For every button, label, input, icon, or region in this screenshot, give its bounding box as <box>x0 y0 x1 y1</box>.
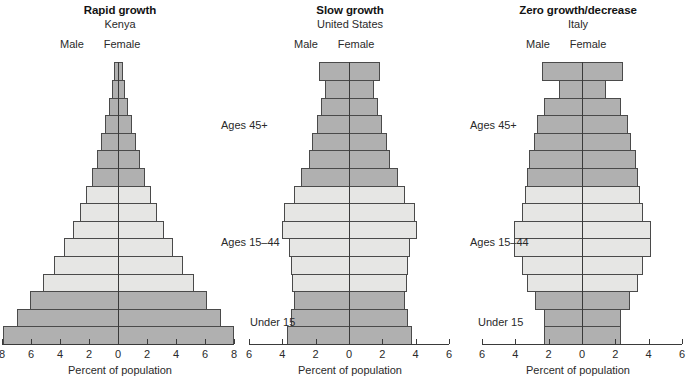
bar-male-2 <box>535 291 583 310</box>
bar-male-7 <box>284 203 350 222</box>
bar-male-13 <box>544 98 583 117</box>
x-tick-7 <box>205 339 206 344</box>
x-tick-label-5: 2 <box>135 348 159 360</box>
bar-female-8 <box>582 186 640 205</box>
x-tick-3 <box>89 339 90 344</box>
bar-male-9 <box>301 168 350 187</box>
bar-female-3 <box>118 274 194 293</box>
age-band-label-left_of_panel3-1: Ages 15–44 <box>470 236 529 248</box>
x-tick-label-7: 6 <box>193 348 217 360</box>
x-tick-label-6: 6 <box>437 348 461 360</box>
bar-female-13 <box>582 98 621 117</box>
bar-female-11 <box>118 133 136 152</box>
bar-female-6 <box>582 221 651 240</box>
x-tick-1 <box>515 339 516 344</box>
bar-female-8 <box>349 186 405 205</box>
x-tick-label-6: 4 <box>164 348 188 360</box>
x-tick-label-4: 2 <box>603 348 627 360</box>
x-tick-2 <box>60 339 61 344</box>
bar-male-12 <box>105 115 119 134</box>
x-tick-6 <box>449 339 450 344</box>
bar-male-0 <box>287 326 350 345</box>
x-tick-label-6: 6 <box>670 348 694 360</box>
panel-title: Zero growth/decrease <box>460 4 696 16</box>
bar-male-11 <box>534 133 583 152</box>
bar-male-6 <box>73 221 119 240</box>
bar-male-5 <box>289 238 350 257</box>
bar-female-15 <box>582 62 623 81</box>
bar-male-1 <box>17 309 120 328</box>
x-tick-label-3: 2 <box>77 348 101 360</box>
bar-female-0 <box>349 326 412 345</box>
bar-male-7 <box>80 203 119 222</box>
bar-female-10 <box>582 150 636 169</box>
x-tick-1 <box>282 339 283 344</box>
age-band-label-left_of_panel2-0: Ages 45+ <box>221 119 268 131</box>
panel-title: Rapid growth <box>0 4 240 16</box>
bar-male-0 <box>3 326 119 345</box>
bar-male-9 <box>527 168 583 187</box>
bar-female-3 <box>582 274 638 293</box>
bar-female-12 <box>118 115 132 134</box>
bar-female-7 <box>118 203 157 222</box>
x-axis-title: Percent of population <box>230 364 470 376</box>
bar-female-2 <box>349 291 405 310</box>
bar-female-8 <box>118 186 151 205</box>
x-tick-0 <box>249 339 250 344</box>
x-tick-6 <box>176 339 177 344</box>
bar-female-13 <box>118 98 128 117</box>
x-tick-5 <box>147 339 148 344</box>
x-tick-label-0: 6 <box>470 348 494 360</box>
panel-subtitle-country: Kenya <box>0 18 240 30</box>
x-tick-label-3: 0 <box>570 348 594 360</box>
x-tick-label-3: 0 <box>337 348 361 360</box>
bar-female-1 <box>118 309 221 328</box>
age-band-label-left_of_panel2-2: Under 15 <box>250 316 295 328</box>
x-axis-line <box>482 344 682 345</box>
x-axis-title: Percent of population <box>0 364 240 376</box>
x-tick-label-1: 4 <box>503 348 527 360</box>
bar-male-12 <box>317 115 350 134</box>
x-tick-5 <box>649 339 650 344</box>
bar-female-7 <box>349 203 415 222</box>
x-tick-label-2: 2 <box>304 348 328 360</box>
x-tick-label-1: 6 <box>19 348 43 360</box>
bar-female-2 <box>582 291 630 310</box>
bar-female-9 <box>582 168 638 187</box>
panel-title: Slow growth <box>230 4 470 16</box>
bar-female-4 <box>349 256 408 275</box>
bar-male-4 <box>291 256 350 275</box>
bar-male-11 <box>312 133 350 152</box>
x-axis-line <box>249 344 449 345</box>
x-tick-label-2: 4 <box>48 348 72 360</box>
bar-male-15 <box>319 62 350 81</box>
bar-female-14 <box>582 80 606 99</box>
bar-male-1 <box>291 309 350 328</box>
bar-male-10 <box>309 150 350 169</box>
x-tick-label-2: 2 <box>537 348 561 360</box>
bar-female-3 <box>349 274 407 293</box>
bar-female-11 <box>582 133 631 152</box>
male-axis-label: Male <box>60 38 84 50</box>
x-tick-4 <box>118 339 119 344</box>
bar-male-15 <box>542 62 583 81</box>
bar-male-7 <box>522 203 583 222</box>
bar-male-9 <box>92 168 119 187</box>
bar-female-4 <box>118 256 183 275</box>
bar-male-12 <box>537 115 583 134</box>
bar-male-2 <box>30 291 119 310</box>
bar-female-5 <box>349 238 410 257</box>
bar-female-9 <box>349 168 398 187</box>
x-tick-label-5: 4 <box>637 348 661 360</box>
male-axis-label: Male <box>294 38 318 50</box>
bar-female-5 <box>118 238 173 257</box>
bar-male-8 <box>86 186 119 205</box>
x-axis-title: Percent of population <box>460 364 696 376</box>
bar-male-3 <box>527 274 583 293</box>
bar-male-4 <box>522 256 583 275</box>
x-tick-label-4: 2 <box>370 348 394 360</box>
bar-female-15 <box>349 62 380 81</box>
male-axis-label: Male <box>526 38 550 50</box>
x-tick-0 <box>2 339 3 344</box>
center-zero-line <box>349 62 350 344</box>
